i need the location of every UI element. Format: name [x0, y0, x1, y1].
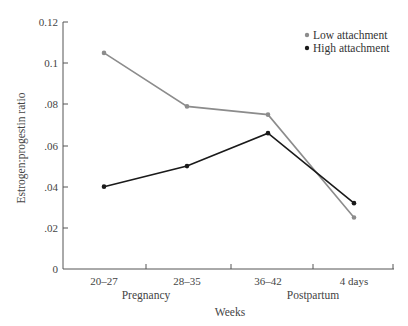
line-chart: 0 .02 .04 .06 .08 0.1 0.12 20–27 28–35 3…: [0, 0, 408, 326]
data-point: [352, 201, 357, 206]
y-tick-label: 0.12: [39, 16, 58, 28]
x-axis-title: Weeks: [215, 306, 246, 318]
y-tick-label: .06: [44, 140, 58, 152]
x-group-label-pregnancy: Pregnancy: [122, 289, 171, 302]
legend: Low attachment High attachment: [305, 29, 390, 55]
x-ticks: [146, 264, 393, 269]
x-tick-labels: 20–27 28–35 36–42 4 days: [90, 275, 368, 287]
legend-label-high: High attachment: [313, 42, 390, 55]
series-points: [102, 131, 357, 206]
y-tick-label: 0.1: [44, 57, 58, 69]
y-tick-label: .02: [44, 222, 58, 234]
y-tick-label: .04: [44, 181, 58, 193]
data-point: [185, 164, 190, 169]
y-ticks: [63, 63, 68, 228]
y-tick-labels: 0 .02 .04 .06 .08 0.1 0.12: [39, 16, 59, 275]
x-tick-label: 20–27: [90, 275, 118, 287]
data-point: [102, 184, 107, 189]
data-point: [102, 51, 107, 56]
x-tick-label: 36–42: [254, 275, 282, 287]
series-line: [104, 53, 354, 218]
x-group-label-postpartum: Postpartum: [287, 289, 339, 302]
series-low-attachment: [102, 51, 357, 220]
legend-marker-high-icon: [305, 46, 309, 50]
data-point: [266, 112, 271, 117]
data-point: [352, 215, 357, 220]
x-tick-label: 28–35: [173, 275, 201, 287]
data-point: [266, 131, 271, 136]
y-tick-label: 0: [53, 263, 59, 275]
y-axis-title: Estrogen:progestin ratio: [15, 92, 28, 203]
legend-marker-low-icon: [305, 33, 309, 37]
x-tick-label: 4 days: [340, 275, 368, 287]
series-line: [104, 133, 354, 203]
series-high-attachment: [102, 131, 357, 206]
data-point: [185, 104, 190, 109]
legend-label-low: Low attachment: [313, 29, 388, 41]
y-tick-label: .08: [44, 98, 58, 110]
